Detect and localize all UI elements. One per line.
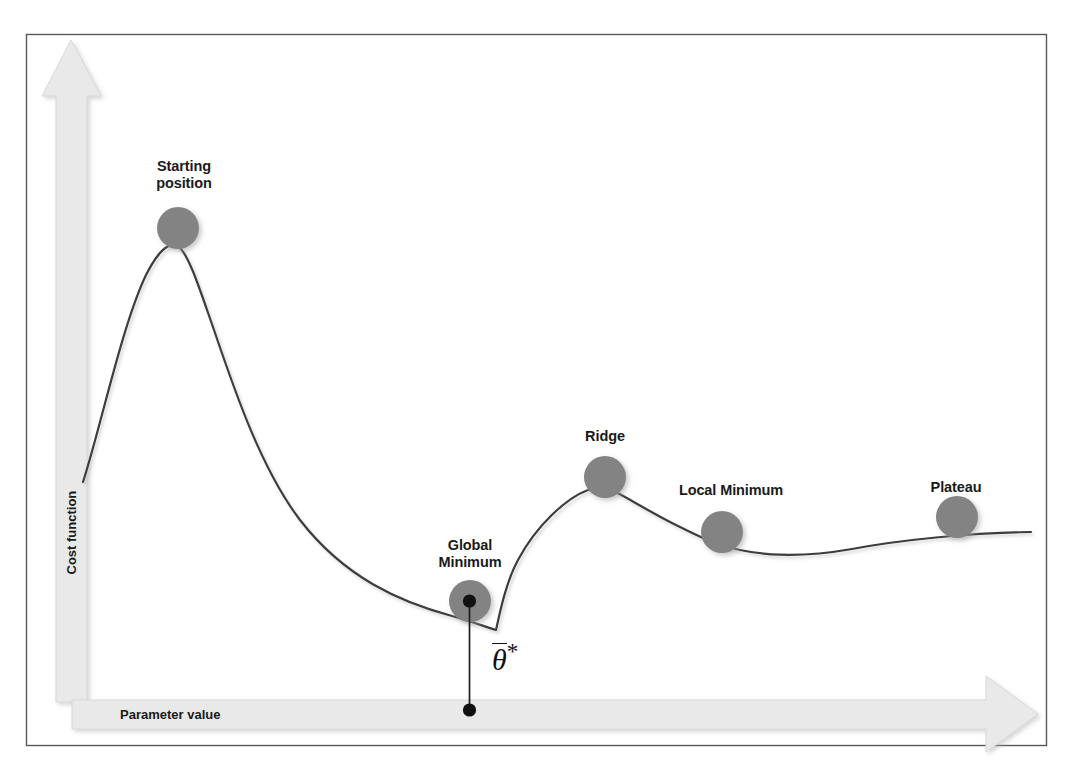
- ball-starting-position: [157, 207, 199, 249]
- ball-ridge: [584, 456, 626, 498]
- dropline-bottom-dot: [463, 703, 476, 716]
- figure-frame: [27, 35, 1047, 746]
- axis-label-parameter-value: Parameter value: [120, 707, 220, 722]
- ball-local-minimum: [701, 511, 743, 553]
- label-global-minimum: Global Minimum: [439, 537, 502, 571]
- axis-label-cost-function: Cost function: [64, 537, 79, 575]
- label-starting-position: Starting position: [156, 158, 212, 192]
- theta-glyph: θ: [492, 643, 507, 675]
- ball-plateau: [936, 496, 978, 538]
- dropline-top-dot: [463, 594, 476, 607]
- figure-root: Starting position Global Minimum Ridge L…: [0, 0, 1073, 781]
- label-ridge: Ridge: [585, 428, 625, 445]
- asterisk-glyph: *: [507, 639, 519, 664]
- cost-function-diagram: [0, 0, 1073, 781]
- label-plateau: Plateau: [931, 479, 982, 496]
- label-optimal-parameter: θ*: [492, 640, 518, 677]
- label-local-minimum: Local Minimum: [679, 482, 783, 499]
